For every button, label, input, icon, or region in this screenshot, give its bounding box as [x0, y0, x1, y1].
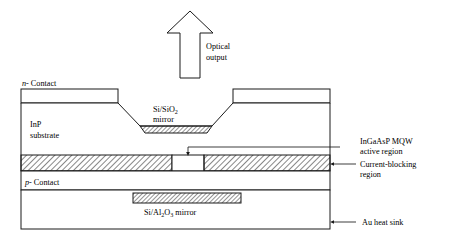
si-al2o3-mirror-shape: [133, 193, 241, 203]
p-contact-layer: p- Contact: [21, 171, 330, 190]
current-blocking-label-line2: region: [360, 170, 381, 179]
si-sio2-mirror-line2: mirror: [153, 115, 174, 124]
si-sio2-mirror-line1: Si/SiO2: [153, 105, 178, 115]
si-sio2-mirror-label: Si/SiO2 mirror: [153, 105, 178, 124]
optical-output-label: Optical output: [206, 42, 231, 62]
n-contact-label: n- Contact: [22, 79, 57, 88]
current-blocking-left-segment: [21, 155, 172, 171]
p-contact-suffix: - Contact: [29, 178, 60, 187]
p-contact-band: [21, 171, 330, 190]
n-contact-label-text: n- Contact: [22, 79, 57, 88]
n-contact-suffix: - Contact: [26, 79, 57, 88]
mqw-label-line1: InGaAsP MQW: [360, 137, 413, 146]
si-sio2-mirror-layer: [140, 126, 212, 133]
mqw-label-line2: active region: [360, 147, 403, 156]
n-contact-right-band: [233, 89, 330, 103]
current-blocking-leader: Current-blocking region: [333, 160, 416, 179]
au-heat-sink-leader: Au heat sink: [333, 218, 404, 227]
n-contact-left-band: [21, 89, 118, 103]
inp-substrate-line2: substrate: [30, 131, 59, 140]
n-contact-layer: [21, 89, 330, 103]
p-contact-label-text: p- Contact: [24, 178, 60, 187]
current-blocking-layer: [21, 155, 330, 171]
mqw-active-region-label: InGaAsP MQW active region: [360, 137, 413, 156]
au-heat-sink-label: Au heat sink: [362, 218, 404, 227]
optical-output-line1: Optical: [206, 42, 231, 51]
current-blocking-label-line1: Current-blocking: [360, 160, 416, 169]
si-sio2-mirror-shape: [140, 126, 212, 133]
current-blocking-aperture: [172, 155, 204, 171]
figure-root: Optical output n- Contact Si/SiO2 mi: [0, 0, 452, 247]
vcsel-cross-section-diagram: Optical output n- Contact Si/SiO2 mi: [0, 0, 452, 247]
optical-output-line2: output: [206, 53, 228, 62]
inp-substrate-line1: InP: [30, 120, 42, 129]
current-blocking-right-segment: [204, 155, 330, 171]
